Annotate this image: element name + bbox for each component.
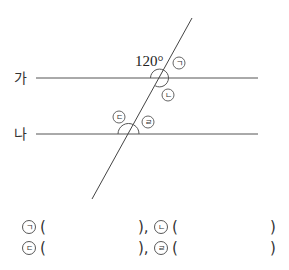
svg-text:ㄱ: ㄱ xyxy=(176,59,183,68)
angle-arc-d xyxy=(134,125,139,134)
answer-blank-a[interactable]: ), xyxy=(138,218,149,236)
svg-text:ㄴ: ㄴ xyxy=(158,223,165,232)
svg-text:ㄷ: ㄷ xyxy=(116,113,123,122)
answer-row-2: ㄷ ( ), ㄹ ( ) xyxy=(23,239,276,257)
marker-c: ㄷ xyxy=(113,111,125,123)
svg-text:ㄱ: ㄱ xyxy=(26,223,33,232)
svg-text:(: ( xyxy=(172,218,178,236)
answer-row-1: ㄱ ( ), ㄴ ( ) xyxy=(23,218,276,236)
svg-text:(: ( xyxy=(40,218,46,236)
svg-text:ㄷ: ㄷ xyxy=(26,244,33,253)
marker-d: ㄹ xyxy=(142,116,154,128)
answer-blank-d[interactable]: ) xyxy=(270,239,276,257)
svg-text:(: ( xyxy=(40,239,46,257)
given-angle-label: 120° xyxy=(135,53,164,69)
label-ga: 가 xyxy=(14,70,27,86)
label-na: 나 xyxy=(14,126,27,142)
svg-text:ㄹ: ㄹ xyxy=(145,118,152,127)
transversal-line xyxy=(92,18,192,199)
answer-blank-b[interactable]: ) xyxy=(270,218,276,236)
marker-b: ㄴ xyxy=(162,89,174,101)
svg-text:ㄹ: ㄹ xyxy=(158,244,165,253)
answer-blank-c[interactable]: ), xyxy=(138,239,149,257)
angle-arc-a xyxy=(164,70,169,78)
angle-arc-b xyxy=(155,78,168,87)
parallel-lines-diagram: 가 나 120° ㄱ ㄴ ㄷ ㄹ ㄱ ( ), ㄴ ( ) ㄷ ( ), xyxy=(0,0,289,270)
svg-text:(: ( xyxy=(172,239,178,257)
svg-text:ㄴ: ㄴ xyxy=(165,91,172,100)
marker-a: ㄱ xyxy=(173,57,185,69)
